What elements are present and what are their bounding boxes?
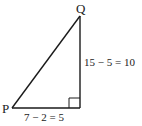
vertex-label-p: P [2,101,9,116]
right-triangle-diagram: Q P 15 − 5 = 10 7 − 2 = 5 [0,0,142,126]
vertical-side-label: 15 − 5 = 10 [84,56,135,68]
horizontal-side-label: 7 − 2 = 5 [24,111,64,123]
right-angle-marker [69,98,80,108]
hypotenuse-pq [12,16,80,108]
vertex-label-q: Q [76,1,86,16]
